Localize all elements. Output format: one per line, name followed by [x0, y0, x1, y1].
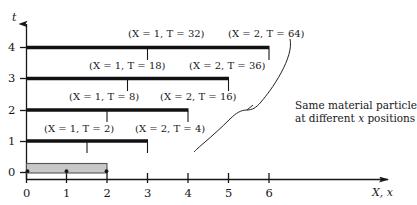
y-axis-label: t [12, 12, 16, 23]
point-label-t1-X2: (X = 2, T = 4) [135, 124, 205, 134]
reference-particle-X0 [26, 169, 30, 173]
y-tick-label-0: 0 [8, 167, 15, 179]
x-axis-label: X, x [372, 187, 393, 198]
x-tick-label-4: 4 [185, 188, 192, 200]
point-label-t4-X2: (X = 2, T = 64) [228, 29, 305, 39]
y-tick-label-2: 2 [8, 105, 15, 117]
configuration-bar-t2 [27, 110, 189, 122]
x-tick-label-6: 6 [266, 188, 273, 200]
point-label-t3-X1: (X = 1, T = 18) [89, 61, 166, 71]
x-axis-ticks [27, 173, 270, 183]
reference-particle-X2 [105, 169, 109, 173]
point-label-t3-X2: (X = 2, T = 36) [189, 61, 266, 71]
point-label-t2-X1: (X = 1, T = 8) [69, 92, 139, 102]
point-label-t1-X1: (X = 1, T = 2) [44, 124, 114, 134]
point-label-t4-X1: (X = 1, T = 32) [128, 29, 205, 39]
y-tick-label-1: 1 [8, 136, 15, 148]
configuration-bar-t1 [27, 141, 149, 153]
configuration-bar-t4 [27, 48, 270, 61]
reference-configuration-bar [26, 164, 109, 174]
x-tick-label-5: 5 [225, 188, 232, 200]
reference-particle-X1 [65, 169, 69, 173]
x-tick-label-1: 1 [63, 188, 70, 200]
configuration-bar-t3 [27, 79, 230, 92]
y-tick-label-3: 3 [8, 73, 15, 85]
x-tick-label-3: 3 [144, 188, 151, 200]
annotation-line-1: Same material particle [295, 99, 417, 112]
x-tick-label-0: 0 [23, 188, 30, 200]
y-tick-label-4: 4 [8, 42, 15, 54]
annotation-same-material-particle: Same material particle at different x po… [295, 99, 417, 126]
annotation-line-2: at different x positions [295, 112, 417, 125]
annotation-line-2-prefix: at different [295, 112, 358, 124]
x-tick-label-2: 2 [104, 188, 111, 200]
annotation-line-2-suffix: positions [364, 112, 415, 124]
point-label-t2-X2: (X = 2, T = 16) [160, 92, 237, 102]
